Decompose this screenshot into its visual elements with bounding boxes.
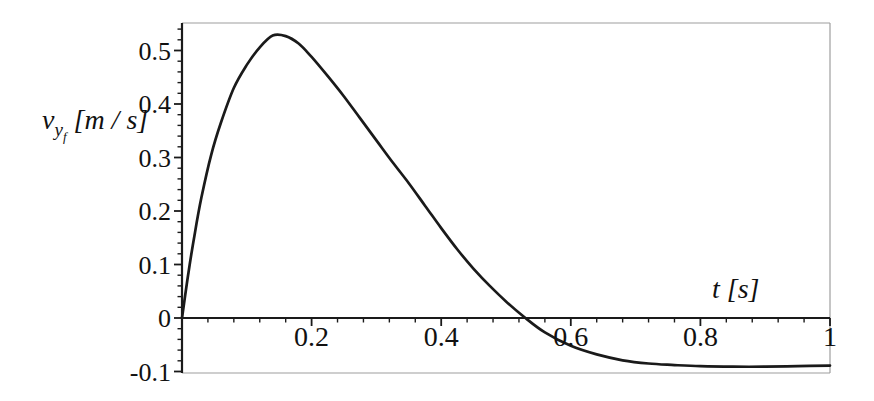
y-axis-label: vyf[m / s] bbox=[42, 106, 148, 136]
x-tick-label: 1 bbox=[823, 321, 837, 352]
y-axis-variable: v bbox=[42, 104, 54, 135]
y-tick-label: 0.3 bbox=[139, 144, 172, 173]
y-axis-tick-labels: 0.50.40.30.20.10-0.1 bbox=[130, 37, 171, 387]
plot-canvas: 0.50.40.30.20.10-0.1 0.20.40.60.81 bbox=[0, 0, 874, 401]
x-tick-label: 0.2 bbox=[294, 321, 329, 352]
x-tick-label: 0.4 bbox=[424, 321, 459, 352]
x-axis-label: t[s] bbox=[712, 275, 759, 303]
y-tick-label: 0.2 bbox=[139, 197, 172, 226]
x-axis-tick-labels: 0.20.40.60.81 bbox=[294, 321, 837, 352]
y-axis-subsubscript: f bbox=[63, 128, 67, 143]
y-axis-subscript: y bbox=[54, 119, 62, 140]
x-tick-label: 0.6 bbox=[553, 321, 588, 352]
y-tick-label: -0.1 bbox=[130, 358, 171, 387]
x-tick-label: 0.8 bbox=[683, 321, 718, 352]
y-tick-label: 0.5 bbox=[139, 37, 172, 66]
velocity-time-plot: 0.50.40.30.20.10-0.1 0.20.40.60.81 vyf[m… bbox=[0, 0, 874, 401]
y-axis-units: [m / s] bbox=[74, 104, 149, 135]
x-axis-variable: t bbox=[712, 273, 720, 304]
x-axis-units: [s] bbox=[727, 273, 760, 304]
y-axis-major-ticks bbox=[174, 51, 182, 372]
y-tick-label: 0.1 bbox=[139, 251, 172, 280]
y-tick-label: 0 bbox=[158, 304, 171, 333]
